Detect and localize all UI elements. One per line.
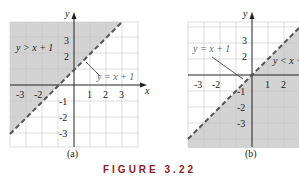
boundary-label-a: y = x + 1 [96,71,134,82]
caption-b: (b) [245,148,257,159]
y-tick-a: -1 [59,96,67,107]
y-tick-b: -2 [237,102,245,113]
y-axis-arrow-icon [72,12,77,19]
x-tick-a: 1 [87,89,92,100]
y-tick-a: 3 [64,35,69,46]
x-tick-b: -2 [212,79,220,90]
x-tick-a: 3 [119,89,124,100]
caption-a: (a) [67,148,78,159]
y-tick-a: -2 [59,112,67,123]
y-tick-b: 2 [242,51,247,62]
y-tick-b: -3 [237,118,245,129]
label-pointer-b [212,57,243,79]
y-tick-b: -1 [237,86,245,97]
y-axis-label-a: y [64,8,70,19]
y-tick-b: 3 [242,35,247,46]
region-label-b: y < x + 1 [272,55,299,66]
figure-title: FIGURE 3.22 [0,164,299,175]
x-tick-a: 2 [103,89,108,100]
y-tick-a: -3 [59,128,67,139]
y-axis-label-b: y [242,8,248,19]
x-tick-b: 2 [281,79,286,90]
region-label-a: y > x + 1 [15,42,53,53]
x-tick-b: -3 [194,79,202,90]
x-tick-a: -2 [34,89,42,100]
y-axis-arrow-icon [250,12,255,19]
x-axis-label-a: x [144,85,150,96]
boundary-label-b: y = x + 1 [192,43,230,54]
y-tick-a: 2 [64,51,69,62]
x-tick-b: 1 [265,79,270,90]
x-tick-a: -3 [16,89,24,100]
